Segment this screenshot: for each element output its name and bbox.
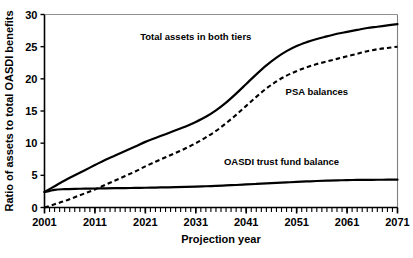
y-tick-label: 20 [25, 73, 37, 85]
annotation-oasdi-trust-fund-balance: OASDI trust fund balance [224, 156, 339, 167]
x-tick-label: 2061 [335, 216, 359, 228]
axis-frame [45, 15, 398, 208]
y-tick-label: 10 [25, 137, 37, 149]
x-tick-label: 2031 [184, 216, 208, 228]
series-line-oasdi-trust-fund-balance [45, 180, 398, 192]
chart-figure: 0510152025302001201120212031204120512061… [0, 0, 413, 258]
x-tick-label: 2041 [234, 216, 258, 228]
x-tick-label: 2071 [385, 216, 409, 228]
chart-annotations: Total assets in both tiersPSA balancesOA… [140, 31, 348, 167]
x-axis-title: Projection year [181, 233, 261, 245]
series-line-psa-balances [45, 47, 398, 208]
y-tick-label: 15 [25, 105, 37, 117]
x-tick-label: 2011 [83, 216, 107, 228]
annotation-total-assets-in-both-tiers: Total assets in both tiers [140, 31, 251, 42]
x-tick-label: 2001 [32, 216, 56, 228]
y-tick-label: 30 [25, 9, 37, 21]
y-tick-label: 5 [31, 169, 37, 181]
y-tick-label: 25 [25, 41, 37, 53]
series-line-total-assets-in-both-tiers [45, 24, 398, 192]
y-axis-title: Ratio of assets to total OASDI benefits [3, 10, 15, 211]
y-tick-label: 0 [31, 202, 37, 214]
x-tick-label: 2051 [284, 216, 308, 228]
x-tick-label: 2021 [133, 216, 157, 228]
line-chart: 0510152025302001201120212031204120512061… [0, 0, 413, 258]
series-group [45, 24, 398, 207]
y-axis-ticks: 051015202530 [25, 9, 44, 214]
annotation-psa-balances: PSA balances [286, 86, 348, 97]
